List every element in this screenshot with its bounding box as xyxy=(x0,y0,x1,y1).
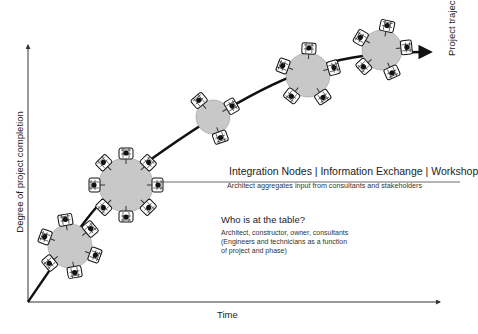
question-line: (Engineers and technicians as a function xyxy=(221,237,371,246)
question-line: of project and phase) xyxy=(221,246,371,255)
integration-node xyxy=(276,43,341,106)
y-axis-label: Degree of project completion xyxy=(14,111,25,232)
x-axis-label: Time xyxy=(217,309,238,320)
question-title: Who is at the table? xyxy=(221,214,305,225)
callout-title: Integration Nodes | Information Exchange… xyxy=(229,165,478,177)
integration-node xyxy=(89,148,163,222)
integration-node xyxy=(38,213,103,278)
integration-node xyxy=(190,92,240,145)
callout-subtitle: Architect aggregates input from consulta… xyxy=(227,181,422,190)
question-line: Architect, constructor, owner, consultan… xyxy=(221,228,371,237)
trajectory-label: Project trajectory xyxy=(446,0,457,56)
question-body: Architect, constructor, owner, consultan… xyxy=(221,228,371,255)
integration-node xyxy=(353,19,413,80)
project-trajectory-curve xyxy=(28,52,430,302)
